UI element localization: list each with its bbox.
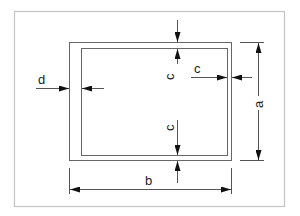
label-c-top: c xyxy=(162,73,177,80)
dimension-c-top: c xyxy=(162,20,178,80)
outer-rectangle xyxy=(70,43,232,161)
label-c-bottom: c xyxy=(162,124,177,131)
label-b: b xyxy=(145,173,152,188)
label-d: d xyxy=(38,72,45,87)
rectangular-section-diagram: d c c c a b xyxy=(0,0,300,216)
inner-rectangle xyxy=(82,49,228,156)
dimension-c-right: c xyxy=(191,61,252,78)
dimension-c-bottom: c xyxy=(162,120,178,183)
label-c-right: c xyxy=(194,61,201,76)
dimension-b: b xyxy=(70,168,232,194)
dimension-a: a xyxy=(240,43,266,161)
label-a: a xyxy=(251,100,266,108)
